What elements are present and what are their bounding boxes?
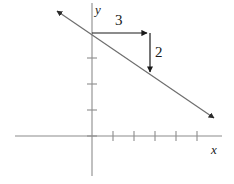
run-value-label: 3: [115, 13, 123, 28]
rise-value-label: 2: [155, 45, 163, 60]
y-axis-label: y: [95, 3, 101, 16]
x-axis-label: x: [211, 143, 217, 156]
plotted-line: [57, 11, 214, 118]
graph-figure: y x 3 2: [0, 0, 234, 184]
